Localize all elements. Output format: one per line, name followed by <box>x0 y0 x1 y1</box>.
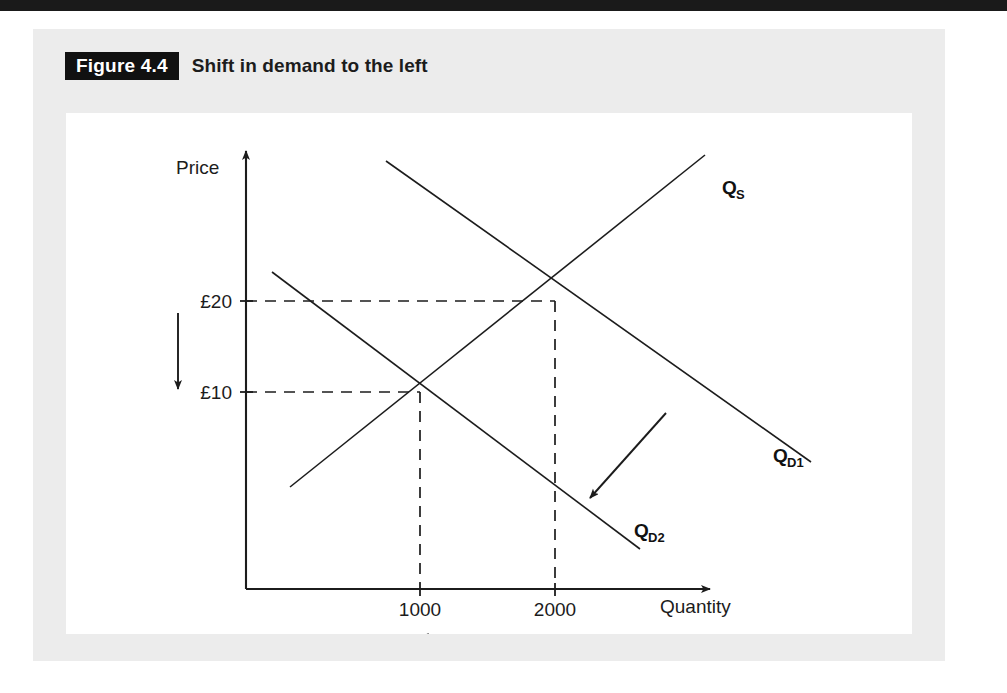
y-tick-label-20: £20 <box>200 291 232 312</box>
equilibrium-2-guides <box>246 392 420 583</box>
equilibrium-1-guides <box>246 301 555 583</box>
figure-number-badge: Figure 4.4 <box>65 52 179 80</box>
demand-shift-arrow-icon <box>590 413 666 498</box>
figure-panel: Figure 4.4 Shift in demand to the left P… <box>33 29 945 661</box>
demand-curve-2-label-sub: D2 <box>648 530 665 545</box>
x-axis-title: Quantity <box>660 596 731 617</box>
figure-caption: Figure 4.4 Shift in demand to the left <box>65 51 428 81</box>
demand-curve-1-label-sub: D1 <box>787 455 804 470</box>
demand-curve-2 <box>272 272 640 549</box>
demand-curve-2-label-main: Q <box>634 520 649 541</box>
x-tick-label-2000: 2000 <box>534 599 576 620</box>
supply-demand-chart: Price Quantity 1000 2000 £20 £10 <box>66 113 912 634</box>
y-tick-label-10: £10 <box>200 382 232 403</box>
figure-caption-text: Shift in demand to the left <box>192 55 428 77</box>
y-axis-title: Price <box>176 157 219 178</box>
demand-curve-1 <box>386 161 811 462</box>
demand-curve-1-label: Q D1 <box>773 445 804 470</box>
chart-canvas: Price Quantity 1000 2000 £20 £10 <box>66 113 912 634</box>
demand-curve-1-label-main: Q <box>773 445 788 466</box>
supply-curve-label-sub: S <box>736 187 745 202</box>
page-top-band <box>0 0 1007 11</box>
demand-curve-2-label: Q D2 <box>634 520 665 545</box>
supply-curve <box>290 155 705 487</box>
x-tick-label-1000: 1000 <box>399 599 441 620</box>
supply-curve-label-main: Q <box>722 177 737 198</box>
supply-curve-label: Q S <box>722 177 745 202</box>
